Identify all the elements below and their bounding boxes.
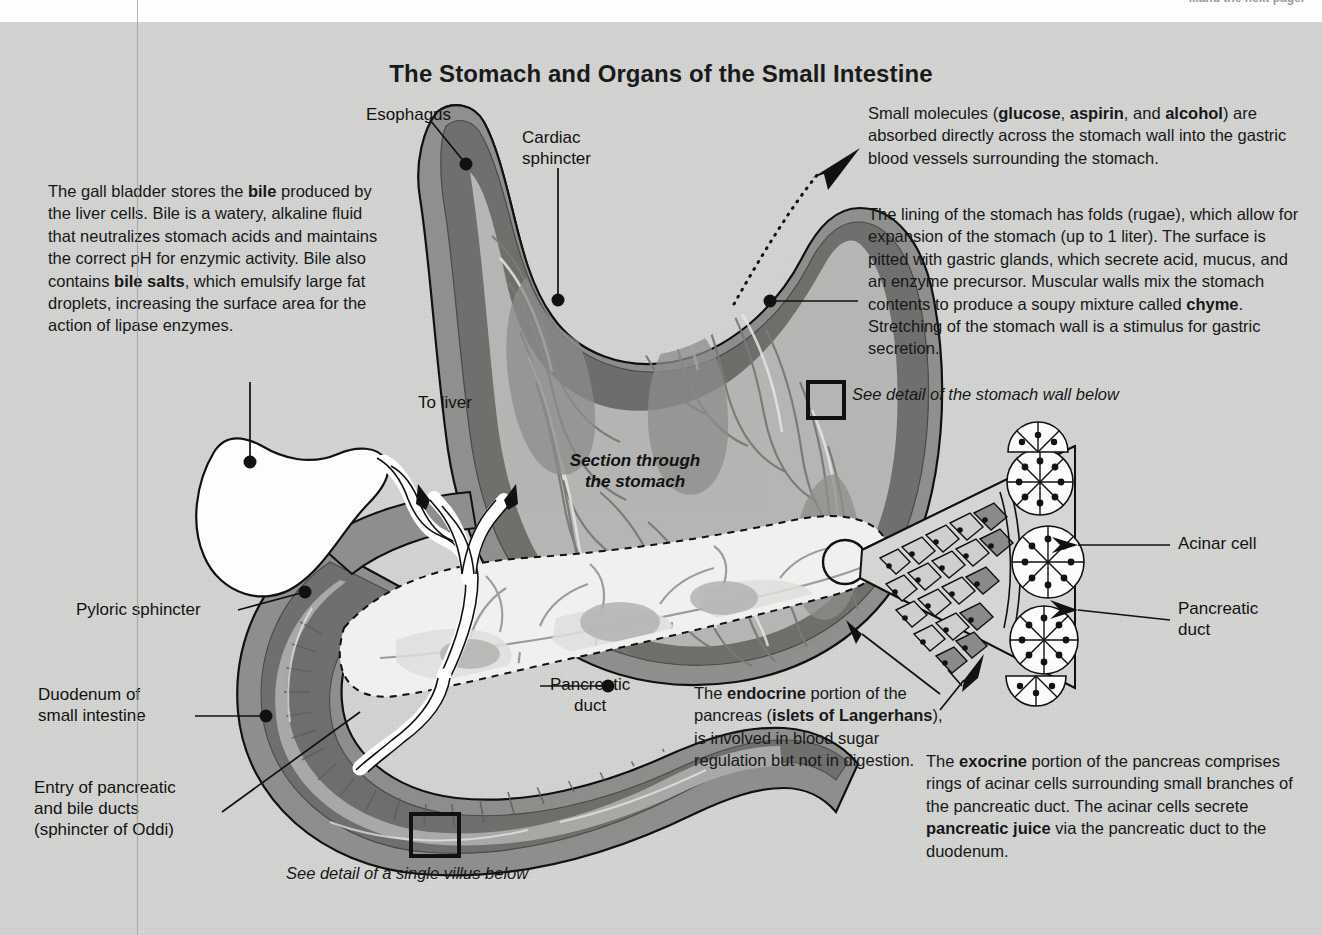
- paragraph-small-molecules: Small molecules (glucose, aspirin, and a…: [868, 102, 1298, 169]
- label-esophagus: Esophagus: [366, 104, 451, 125]
- label-to-liver: To liver: [418, 392, 472, 413]
- label-section-through-stomach: Section through the stomach: [530, 450, 740, 492]
- label-pancreatic-duct-center: Pancreatic duct: [550, 674, 630, 716]
- figure-canvas: The Stomach and Organs of the Small Inte…: [0, 22, 1322, 935]
- paragraph-gall-bladder: The gall bladder stores the bile produce…: [48, 180, 388, 337]
- paragraph-stomach-lining: The lining of the stomach has folds (rug…: [868, 203, 1306, 360]
- paragraph-exocrine: The exocrine portion of the pancreas com…: [926, 750, 1298, 862]
- caption-villus-detail: See detail of a single villus below: [286, 864, 528, 883]
- paragraph-endocrine: The endocrine portion of the pancreas (i…: [694, 682, 944, 772]
- villus-detail-box[interactable]: [409, 812, 461, 858]
- running-head-right-text: ...and the next page.: [1189, 0, 1304, 5]
- label-cardiac-sphincter: Cardiac sphincter: [522, 127, 591, 169]
- label-pancreatic-duct-right: Pancreatic duct: [1178, 598, 1258, 640]
- label-acinar-cell: Acinar cell: [1178, 533, 1256, 554]
- page-gutter-line: [137, 0, 138, 935]
- running-head-strip: ...and the next page.: [0, 0, 1322, 22]
- stomach-wall-detail-box[interactable]: [806, 380, 846, 420]
- page-title: The Stomach and Organs of the Small Inte…: [0, 60, 1322, 88]
- label-duodenum-small-intestine: Duodenum of small intestine: [38, 684, 146, 726]
- figure-page: ...and the next page.: [0, 0, 1322, 935]
- caption-stomach-wall-detail: See detail of the stomach wall below: [852, 385, 1119, 404]
- label-pyloric-sphincter: Pyloric sphincter: [76, 599, 201, 620]
- label-entry-of-ducts: Entry of pancreatic and bile ducts (sphi…: [34, 777, 176, 840]
